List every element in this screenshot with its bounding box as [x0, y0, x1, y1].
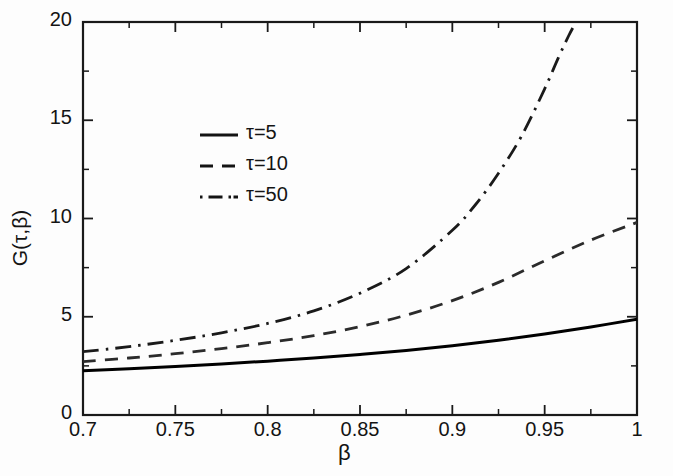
x-tick-label: 0.75: [140, 418, 210, 441]
x-tick-label: 0.95: [510, 418, 580, 441]
x-tick-label: 0.85: [325, 418, 395, 441]
y-tick-label: 20: [32, 8, 72, 31]
axis-ticks: [83, 22, 637, 415]
y-tick-label: 10: [32, 205, 72, 228]
legend-line-samples: [200, 135, 238, 197]
x-tick-label: 1: [602, 418, 672, 441]
legend-label-2: τ=50: [246, 183, 288, 206]
x-tick-label: 0.9: [417, 418, 487, 441]
y-tick-label: 5: [32, 303, 72, 326]
data-series-group: [83, 22, 637, 371]
figure-chart-g-tau-beta: G(τ,β) β 0.70.750.80.850.90.951 05101520…: [0, 0, 673, 476]
y-axis-label: G(τ,β): [8, 188, 32, 288]
series-curve-0: [83, 319, 637, 371]
y-tick-label: 0: [32, 401, 72, 424]
legend-label-0: τ=5: [246, 121, 277, 144]
plot-frame: [83, 22, 637, 415]
series-curve-2: [83, 22, 576, 352]
y-tick-label: 15: [32, 106, 72, 129]
x-tick-label: 0.8: [233, 418, 303, 441]
x-axis-label: β: [338, 440, 351, 466]
legend-label-1: τ=10: [246, 152, 288, 175]
plot-canvas: [0, 0, 673, 476]
